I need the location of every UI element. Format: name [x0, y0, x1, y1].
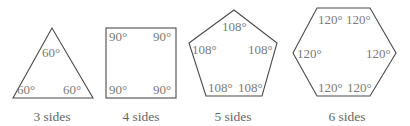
hexagon-angle-bottom-right: 120°: [347, 80, 372, 95]
hexagon-angle-bottom-left: 120°: [318, 80, 343, 95]
square-figure: 90° 90° 90° 90° 4 sides: [106, 28, 176, 124]
hexagon-angle-left: 120°: [297, 46, 322, 61]
polygon-angles-diagram: 60° 60° 60° 3 sides 90° 90° 90° 90° 4 si…: [0, 0, 410, 126]
square-angle-bottom-right: 90°: [153, 82, 171, 97]
triangle-angle-top: 60°: [42, 45, 60, 60]
square-angle-bottom-left: 90°: [109, 82, 127, 97]
hexagon-angle-top-right: 120°: [346, 12, 371, 27]
triangle-angle-right: 60°: [63, 82, 81, 97]
hexagon-angle-top-left: 120°: [318, 12, 343, 27]
pentagon-angle-top: 108°: [222, 19, 247, 34]
hexagon-caption: 6 sides: [328, 109, 365, 124]
pentagon-angle-left: 108°: [192, 42, 217, 57]
pentagon-caption: 5 sides: [214, 109, 251, 124]
square-caption: 4 sides: [122, 109, 159, 124]
pentagon-angle-bottom-right: 108°: [238, 80, 263, 95]
pentagon-angle-right: 108°: [248, 42, 273, 57]
hexagon-figure: 120° 120° 120° 120° 120° 120° 6 sides: [293, 8, 396, 124]
square-angle-top-left: 90°: [109, 29, 127, 44]
triangle-angle-left: 60°: [17, 82, 35, 97]
square-angle-top-right: 90°: [153, 29, 171, 44]
triangle-figure: 60° 60° 60° 3 sides: [13, 28, 93, 124]
triangle-caption: 3 sides: [33, 109, 70, 124]
pentagon-angle-bottom-left: 108°: [208, 80, 233, 95]
pentagon-figure: 108° 108° 108° 108° 108° 5 sides: [189, 10, 277, 124]
hexagon-angle-right: 120°: [366, 46, 391, 61]
